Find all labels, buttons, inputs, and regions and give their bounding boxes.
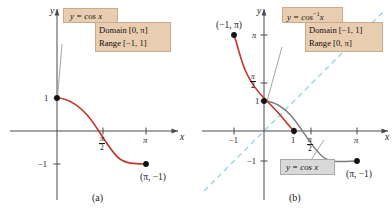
cos-box-label-b: y = cos x bbox=[286, 162, 318, 172]
domain-text-a: Domain [0, π] bbox=[99, 25, 148, 35]
range-text-b: Range [0, π] bbox=[309, 38, 352, 48]
half-pi-denominator-a: 2 bbox=[99, 144, 105, 152]
point-pi-neg-one-b bbox=[354, 158, 360, 164]
x-axis-arrow bbox=[172, 129, 179, 134]
point-label-neg-one-pi: (−1, π) bbox=[216, 20, 242, 30]
callout-label-exponent-b: −1 bbox=[313, 10, 320, 17]
tick-label-y-neg-one-a: −1 bbox=[38, 159, 47, 169]
point-zero-one-b bbox=[261, 98, 267, 104]
y-axis-arrow bbox=[262, 9, 267, 16]
tick-label-x-pi-b: π bbox=[354, 135, 358, 145]
tick-label-y-half-pi-b: π 2 bbox=[250, 73, 256, 89]
tick-label-x-pi-a: π bbox=[143, 135, 147, 145]
x-axis-label-a: x bbox=[180, 132, 184, 142]
point-label-pi-neg-one-b: (π, −1) bbox=[346, 169, 372, 179]
callout-label-variable-b: x bbox=[320, 12, 324, 22]
tick-label-y-pi-b: π bbox=[252, 30, 256, 40]
callout-label-b: y = cos−1x bbox=[287, 10, 324, 22]
tick-label-y-neg-one-b: −1 bbox=[247, 156, 256, 166]
half-pi-denominator-y-b: 2 bbox=[250, 82, 256, 90]
tick-label-x-one-b: 1 bbox=[291, 135, 295, 145]
tick-label-y-one-a: 1 bbox=[44, 93, 48, 103]
point-one-zero bbox=[291, 128, 297, 134]
y-axis-label-a: y bbox=[50, 6, 54, 16]
y-axis-label-b: y bbox=[257, 6, 261, 16]
panel-caption-a: (a) bbox=[92, 192, 103, 203]
point-zero-one bbox=[54, 95, 60, 101]
tick-label-x-half-pi-a: π 2 bbox=[99, 135, 105, 151]
point-pi-neg-one bbox=[143, 161, 149, 167]
point-neg-one-pi bbox=[231, 32, 237, 38]
callout-leader-line-b bbox=[267, 47, 282, 101]
panel-caption-b: (b) bbox=[289, 192, 301, 203]
panel-b: x y π π 2 1 −1 −1 1 π 2 π (−1, π) (π, −1… bbox=[196, 0, 392, 212]
range-text-a: Range [−1, 1] bbox=[99, 38, 147, 48]
domain-text-b: Domain [−1, 1] bbox=[309, 25, 362, 35]
y-axis-arrow bbox=[55, 9, 60, 16]
x-axis-label-b: x bbox=[385, 132, 389, 142]
callout-label-a: y = cos x bbox=[70, 11, 102, 21]
point-label-pi-neg-one-a: (π, −1) bbox=[140, 172, 166, 182]
half-pi-denominator-x-b: 2 bbox=[307, 145, 313, 153]
callout-leader-line bbox=[58, 44, 63, 97]
callout-label-base-b: y = cos bbox=[287, 12, 313, 22]
tick-label-x-neg-one-b: −1 bbox=[229, 135, 238, 145]
panel-a: x y 1 −1 π 2 π (π, −1) Domain [0, π] Ran… bbox=[0, 0, 196, 212]
tick-label-x-half-pi-b: π 2 bbox=[307, 136, 313, 152]
figure-root: x y 1 −1 π 2 π (π, −1) Domain [0, π] Ran… bbox=[0, 0, 392, 212]
tick-label-y-one-b: 1 bbox=[255, 96, 259, 106]
